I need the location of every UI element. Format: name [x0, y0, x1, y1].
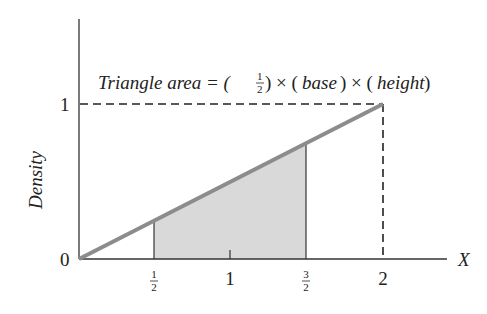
x-tick-label-half-den: 2 [151, 281, 157, 293]
annotation-height: height [377, 72, 425, 93]
x-axis-label: X [457, 249, 471, 270]
x-tick-label-half-num: 1 [151, 268, 157, 280]
x-tick-label-two: 2 [378, 268, 388, 289]
annotation-frac-den: 2 [257, 83, 263, 95]
origin-label: 0 [60, 249, 70, 270]
y-tick-label-1: 1 [60, 94, 70, 115]
annotation-base: base [302, 72, 337, 93]
shaded-area [154, 145, 306, 259]
annotation-mult-1: ) × ( [265, 72, 298, 94]
annotation-mult-2: ) × ( [340, 72, 373, 94]
x-tick-label-three-half-den: 2 [303, 281, 309, 293]
annotation-frac-num: 1 [257, 70, 263, 82]
annotation-text: Triangle area = ( [98, 72, 232, 94]
annotation-close: ) [424, 72, 430, 94]
y-axis-label: Density [25, 150, 46, 210]
density-chart: Triangle area = ( 1 2 ) × ( base ) × ( h… [0, 0, 487, 314]
x-tick-label-three-half-num: 3 [303, 268, 309, 280]
x-tick-label-one: 1 [225, 268, 235, 289]
